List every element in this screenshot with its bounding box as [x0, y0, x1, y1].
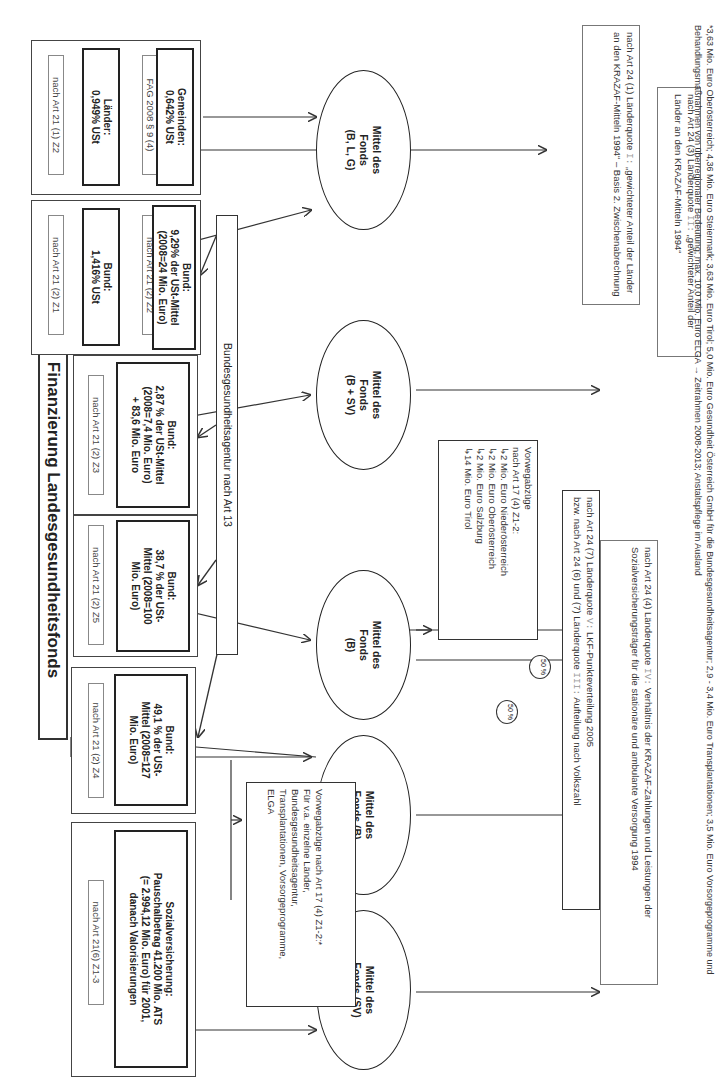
list-item: 2 Mio. Euro Niederösterreich — [498, 447, 510, 633]
split-badge-b: 50 % — [496, 700, 518, 724]
arrow-agency-to-z5 — [198, 560, 216, 585]
arrow-agency-to-z3 — [198, 425, 216, 437]
page-title: Finanzierung Landesgesundheitsfonds — [38, 300, 68, 740]
fund-ellipse-b-sv: Mittel des Fonds (B + SV) — [316, 320, 411, 470]
source-ref: nach Art 21 (1) Z2 — [48, 55, 64, 175]
footnote-text: *3,63 Mio. Euro Oberösterreich; 4,36 Mio… — [688, 25, 716, 1065]
pre-deductions-box-2: Vorwegabzüge nach Art 17 (4) Z1-2:* Für … — [246, 782, 356, 1007]
quota-box-I: nach Art 24 (1) Länderquote I: „gewichte… — [582, 25, 640, 305]
source-box-sozialversicherung: Sozialversicherung: Pauschalbetrag 41.20… — [114, 830, 188, 1068]
source-ref: nach Art 21 (2) Z3 — [88, 375, 104, 495]
quota-index: V: — [584, 618, 595, 629]
source-box-bund-z4: Bund: 49,1 % der USt- Mittel (2008=127 M… — [114, 674, 188, 806]
fund-ellipse-b: Mittel des Fonds (B) — [316, 570, 411, 720]
quota-box-IV: nach Art 24 (4) Länderquote IV: Verhältn… — [600, 540, 658, 985]
list-item: 14 Mio. Euro Tirol — [462, 447, 474, 633]
source-ref: nach Art 21 (2) Z1 — [48, 215, 64, 335]
source-box-bund-z2: Bund: 9,29% der USt-Mittel (2008=24 Mio.… — [152, 205, 196, 350]
list-item: 2 Mio. Euro Oberösterreich — [486, 447, 498, 633]
quota-index: IV: — [642, 668, 653, 685]
source-box-bund-z3: Bund: 2,87 % der USt-Mittel (2008=7,4 Mi… — [116, 362, 190, 508]
split-badge-a: 50 % — [529, 655, 551, 679]
source-ref: nach Art 21 (2) Z4 — [88, 683, 104, 798]
fund-ellipse-b-l-g: Mittel des Fonds (B, L, G) — [316, 70, 411, 230]
pre-deductions-heading: Vorwegabzüge nach Art 17 (4) Z1-2: — [510, 447, 534, 633]
pre-deductions-box-1: Vorwegabzüge nach Art 17 (4) Z1-2: 2 Mio… — [438, 440, 538, 640]
source-box-bund-z1: Bund: 1,416% USt — [82, 208, 120, 346]
arrow-agency-to-z4 — [198, 650, 218, 737]
quota-index: III: — [571, 672, 582, 695]
pre-deductions-list: 2 Mio. Euro Niederösterreich 2 Mio. Euro… — [462, 447, 510, 633]
list-item: 2 Mio. Euro Salzburg — [474, 447, 486, 633]
source-box-bund-z5: Bund: 38,7 % der USt- Mittel (2008=100 M… — [116, 520, 190, 652]
quota-index: I: — [624, 153, 635, 164]
quota-box-V-III: nach Art 24 (7) Länderquote V: LKF-Punkt… — [562, 490, 600, 910]
diagram-canvas: Finanzierung Landesgesundheitsfonds Bund… — [0, 0, 716, 1077]
source-box-laender: Länder: 0,949% USt — [82, 48, 120, 186]
source-box-gemeinden: Gemeinden: 0,642% USt — [156, 48, 194, 186]
agency-label: Bundesgesundheitsagentur nach Art 13 — [216, 215, 238, 655]
source-ref: nach Art 21(6) Z1-3 — [88, 880, 104, 1005]
source-ref: nach Art 21 (2) Z5 — [88, 525, 104, 645]
